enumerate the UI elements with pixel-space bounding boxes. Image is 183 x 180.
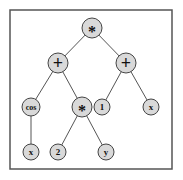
tree-edges	[31, 28, 151, 152]
node-label: *	[88, 23, 96, 40]
node-label: +	[53, 53, 63, 73]
node-label: x	[149, 102, 154, 112]
node-label: y	[104, 147, 109, 157]
tree-node-variable: x	[143, 99, 159, 115]
node-label: 2	[56, 147, 61, 157]
node-label: 1	[100, 102, 105, 112]
tree-node-operator: +	[48, 53, 68, 73]
tree-node-constant: 1	[94, 99, 110, 115]
tree-node-function: cos	[22, 98, 40, 116]
tree-node-constant: 2	[50, 144, 66, 160]
node-label: cos	[26, 103, 37, 112]
expression-tree-diagram: *++cos*1xx2y	[0, 0, 183, 180]
tree-node-variable: x	[23, 144, 39, 160]
node-label: *	[78, 102, 86, 119]
tree-node-variable: y	[98, 144, 114, 160]
node-label: +	[121, 53, 131, 73]
tree-node-operator: +	[116, 53, 136, 73]
tree-node-operator: *	[72, 97, 92, 119]
tree-node-operator: *	[82, 18, 102, 40]
node-label: x	[29, 147, 34, 157]
